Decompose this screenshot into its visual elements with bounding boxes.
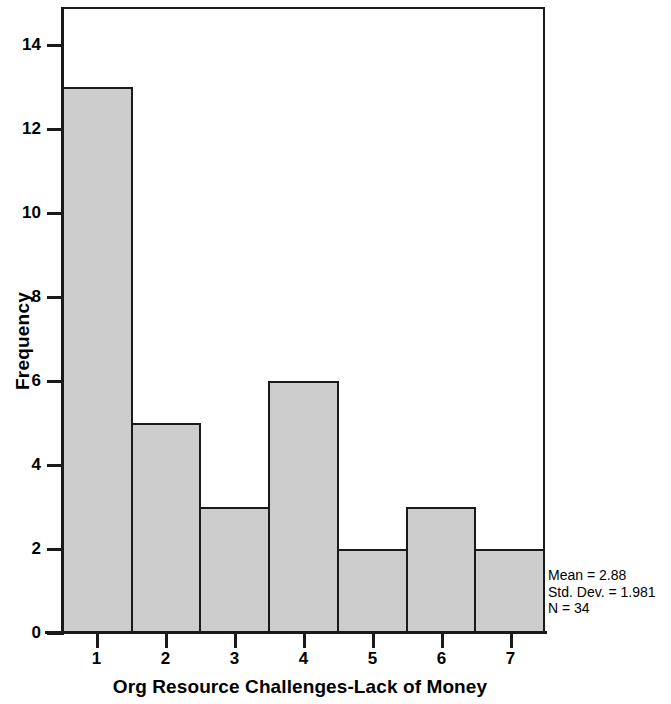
x-axis-tick-label: 4 — [284, 650, 324, 667]
stat-n: N = 34 — [548, 600, 656, 617]
y-axis-tick — [47, 128, 61, 131]
y-axis-tick-label: 0 — [1, 624, 41, 641]
histogram-bar — [337, 549, 408, 633]
y-axis-tick — [47, 296, 61, 299]
y-axis-tick — [47, 380, 61, 383]
y-axis-tick-label: 10 — [1, 204, 41, 221]
x-axis-title: Org Resource Challenges-Lack of Money — [0, 676, 600, 698]
stat-mean: Mean = 2.88 — [548, 567, 656, 584]
statistics-annotation: Mean = 2.88 Std. Dev. = 1.981 N = 34 — [548, 567, 656, 617]
x-axis-tick — [234, 634, 237, 648]
x-axis-tick — [303, 634, 306, 648]
histogram-bar — [474, 549, 545, 633]
x-axis-tick — [510, 634, 513, 648]
x-axis-tick — [96, 634, 99, 648]
y-axis-line — [61, 7, 64, 635]
x-axis-line — [45, 631, 547, 634]
bar-series — [62, 7, 545, 633]
x-axis-tick — [165, 634, 168, 648]
y-axis-tick-label: 14 — [1, 36, 41, 53]
histogram-bar — [131, 423, 202, 633]
x-axis-tick-label: 3 — [215, 650, 255, 667]
x-axis-tick-label: 7 — [491, 650, 531, 667]
y-axis-tick-label: 12 — [1, 120, 41, 137]
histogram-bar — [268, 381, 339, 633]
x-axis-tick-label: 6 — [422, 650, 462, 667]
histogram-bar — [406, 507, 477, 633]
y-axis-tick — [47, 212, 61, 215]
y-axis-title: Frequency — [12, 266, 34, 416]
histogram-bar — [62, 87, 133, 633]
y-axis-tick — [47, 548, 61, 551]
x-axis-tick-label: 5 — [353, 650, 393, 667]
y-axis-tick — [47, 44, 61, 47]
y-axis-tick-label: 2 — [1, 540, 41, 557]
histogram-figure: 02468101214 Frequency 1234567 Org Resour… — [0, 0, 671, 704]
y-axis-tick — [47, 464, 61, 467]
x-axis-tick — [441, 634, 444, 648]
stat-stddev: Std. Dev. = 1.981 — [548, 584, 656, 601]
x-axis-tick-label: 1 — [77, 650, 117, 667]
y-axis-tick-label: 4 — [1, 456, 41, 473]
x-axis-tick-label: 2 — [146, 650, 186, 667]
histogram-bar — [199, 507, 270, 633]
x-axis-tick — [372, 634, 375, 648]
